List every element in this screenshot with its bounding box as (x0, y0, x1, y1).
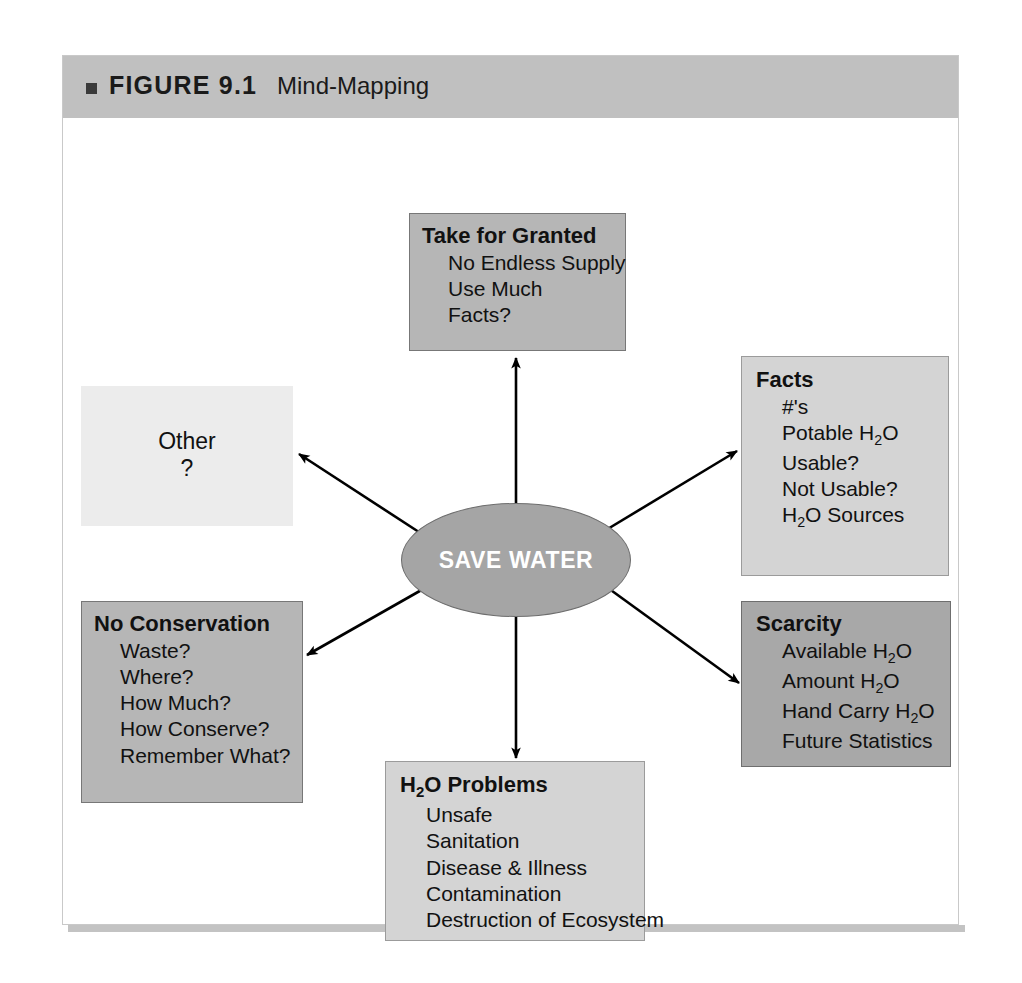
figure-header: FIGURE 9.1 Mind-Mapping (63, 56, 958, 118)
node-item: H2O Sources (782, 502, 948, 532)
node-item: Facts? (448, 302, 625, 328)
node-item-list: Available H2O Amount H2O Hand Carry H2O … (756, 638, 950, 754)
node-title: Take for Granted (422, 224, 625, 249)
connector-down-left (307, 588, 425, 655)
figure-label: FIGURE 9.1 (109, 71, 257, 100)
node-item: Usable? (782, 450, 948, 476)
mind-map-canvas: Take for Granted No Endless Supply Use M… (63, 118, 958, 924)
node-item: Future Statistics (782, 728, 950, 754)
node-item: Hand Carry H2O (782, 698, 950, 728)
node-item: Amount H2O (782, 668, 950, 698)
node-item: Unsafe (426, 802, 644, 828)
center-node-save-water[interactable]: SAVE WATER (401, 503, 631, 617)
connector-down-right (608, 588, 739, 683)
node-title: Scarcity (756, 612, 950, 637)
figure-frame: FIGURE 9.1 Mind-Mapping (62, 55, 959, 925)
node-h2o-problems[interactable]: H2O Problems Unsafe Sanitation Disease &… (385, 761, 645, 941)
node-item: ? (181, 454, 194, 483)
node-item: Remember What? (120, 743, 302, 769)
node-facts[interactable]: Facts #'s Potable H2O Usable? Not Usable… (741, 356, 949, 576)
node-item-list: Waste? Where? How Much? How Conserve? Re… (94, 638, 302, 769)
figure-page: FIGURE 9.1 Mind-Mapping (0, 0, 1022, 983)
node-title: Other (158, 429, 216, 454)
node-item: How Much? (120, 690, 302, 716)
center-node-label: SAVE WATER (439, 547, 594, 574)
node-title: No Conservation (94, 612, 302, 637)
node-item: How Conserve? (120, 716, 302, 742)
node-item: Waste? (120, 638, 302, 664)
connector-up-left (299, 454, 425, 536)
connector-up-right (606, 451, 737, 530)
node-item-list: No Endless Supply Use Much Facts? (422, 250, 625, 329)
node-item: Not Usable? (782, 476, 948, 502)
node-item: Disease & Illness (426, 855, 644, 881)
node-item: Contamination (426, 881, 644, 907)
node-item: Available H2O (782, 638, 950, 668)
node-no-conservation[interactable]: No Conservation Waste? Where? How Much? … (81, 601, 303, 803)
node-item: Where? (120, 664, 302, 690)
node-other-content: Other ? (82, 387, 292, 525)
node-title: H2O Problems (400, 773, 644, 801)
node-item: Potable H2O (782, 420, 948, 450)
node-item: No Endless Supply (448, 250, 625, 276)
node-item: Destruction of Ecosystem (426, 907, 644, 933)
node-item: Sanitation (426, 828, 644, 854)
node-item-list: Unsafe Sanitation Disease & Illness Cont… (400, 802, 644, 933)
node-item-list: #'s Potable H2O Usable? Not Usable? H2O … (756, 394, 948, 533)
node-scarcity[interactable]: Scarcity Available H2O Amount H2O Hand C… (741, 601, 951, 767)
node-item: #'s (782, 394, 948, 420)
node-take-for-granted[interactable]: Take for Granted No Endless Supply Use M… (409, 213, 626, 351)
node-title: Facts (756, 368, 948, 393)
node-item: Use Much (448, 276, 625, 302)
figure-title: Mind-Mapping (277, 72, 429, 100)
square-bullet-icon (86, 83, 97, 94)
node-other[interactable]: Other ? (81, 386, 293, 526)
